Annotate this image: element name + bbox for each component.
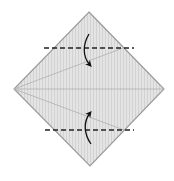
origami-diagram bbox=[0, 0, 174, 181]
